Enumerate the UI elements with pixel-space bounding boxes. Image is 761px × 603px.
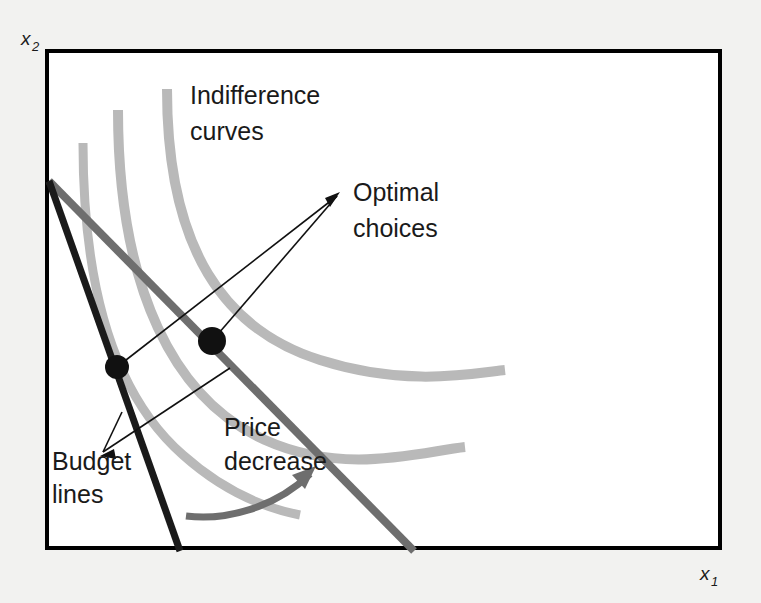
budget-lines-label-line2: lines [52,480,103,508]
price-decrease-label-line1: Price [224,413,281,441]
y-axis-label-text: x [20,28,32,49]
y-axis-label-subscript: 2 [31,39,40,54]
indifference-curves-label-line2: curves [190,117,264,145]
x-axis-label-subscript: 1 [711,574,718,589]
x-axis-label-text: x [699,563,711,584]
optimal-point-initial [105,355,129,379]
indifference-curve-diagram: x 2 x 1 [0,0,761,603]
optimal-point-new [198,327,226,355]
price-decrease-label-line2: decrease [224,447,327,475]
optimal-choices-label-line1: Optimal [353,178,439,206]
budget-lines-label-line1: Budget [52,447,131,475]
indifference-curves-label-line1: Indifference [190,81,320,109]
figure-canvas: x 2 x 1 [0,0,761,603]
optimal-choices-label-line2: choices [353,214,438,242]
